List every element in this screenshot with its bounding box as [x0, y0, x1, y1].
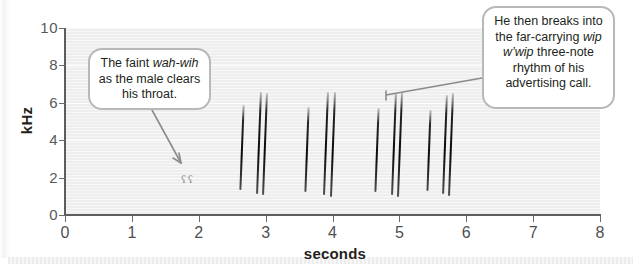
callout-left-line1-em: wah-wih [153, 56, 199, 70]
callout-right-line4: rhythm of his [513, 61, 585, 75]
callout-left-line3: his throat. [122, 87, 177, 101]
callout-right: He then breaks into the far-carrying wip… [482, 6, 615, 109]
callout-left-line2: as the male clears [99, 72, 200, 86]
callout-right-line1: He then breaks into [494, 14, 602, 28]
callout-right-line2-em: wip [583, 30, 602, 44]
callout-left: The faint wah-wih as the male clears his… [88, 48, 211, 110]
callout-right-line2-pre: the far-carrying [495, 30, 583, 44]
spectrogram-figure: ʕʕ 0246810 012345678 seconds kHz The fai… [0, 0, 641, 278]
callout-right-line3-post: three-note [534, 45, 594, 59]
leader-line-left [152, 110, 181, 163]
callout-left-line1-pre: The faint [101, 56, 153, 70]
callout-right-line5: advertising call. [505, 76, 591, 90]
leader-line-right [386, 78, 482, 95]
callout-right-line3-em: w’wip [503, 45, 534, 59]
